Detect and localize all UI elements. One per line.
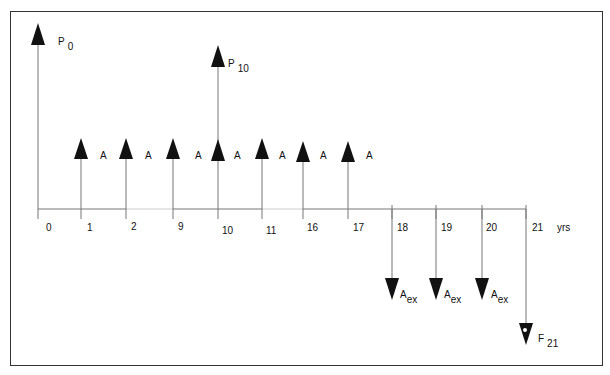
tick-label: 2 (131, 222, 137, 232)
label-p0: P0 (58, 37, 73, 47)
arrow-marker-icon (523, 328, 527, 332)
tick-label: 20 (486, 223, 497, 233)
label-a-ex: Aex (400, 290, 417, 300)
label-a: A (100, 151, 107, 161)
arrow-up-icon (74, 138, 88, 159)
cash-flow-diagram (0, 0, 610, 375)
label-a: A (366, 151, 373, 161)
label-a-ex: Aex (444, 290, 461, 300)
tick-label: 18 (397, 223, 408, 233)
label-a-ex: Aex (491, 290, 508, 300)
arrow-up-icon (255, 138, 269, 159)
tick-label: 21 (532, 223, 543, 233)
tick-label: 19 (441, 223, 452, 233)
label-p10: P10 (228, 59, 249, 69)
label-a: A (279, 151, 286, 161)
arrow-up-icon (119, 138, 133, 159)
axis-ticks (38, 205, 526, 219)
arrow-down-icon (519, 323, 533, 345)
axis-unit-label: yrs (557, 223, 570, 233)
tick-label: 11 (266, 226, 276, 236)
tick-label: 16 (307, 223, 318, 233)
label-a: A (234, 151, 241, 161)
arrow-up-icon (341, 141, 355, 162)
tick-label: 0 (46, 223, 52, 233)
arrow-down-icon (475, 278, 489, 300)
arrow-up-icon (211, 139, 225, 161)
label-a: A (320, 151, 327, 161)
arrow-up-icon (296, 141, 310, 162)
arrow-up-icon (166, 138, 180, 159)
tick-label: 1 (87, 223, 93, 233)
arrow-down-icon (385, 278, 399, 300)
label-f21: F21 (538, 334, 558, 344)
arrow-down-icon (429, 278, 443, 300)
tick-label: 17 (353, 223, 364, 233)
arrow-up-icon (31, 23, 45, 45)
arrow-up-icon (211, 45, 225, 67)
tick-label: 9 (178, 222, 184, 232)
label-a: A (195, 151, 202, 161)
tick-label: 10 (222, 226, 233, 236)
label-a: A (145, 151, 152, 161)
